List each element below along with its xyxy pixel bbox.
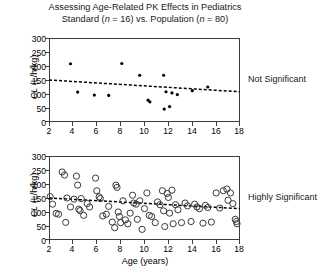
data-point bbox=[224, 186, 230, 192]
data-point bbox=[200, 220, 206, 226]
data-point bbox=[139, 226, 145, 232]
data-point bbox=[227, 190, 233, 196]
data-point bbox=[141, 206, 147, 212]
data-point bbox=[73, 173, 79, 179]
data-point bbox=[49, 201, 55, 207]
data-point bbox=[166, 210, 172, 216]
annotation-highly-significant: Highly Significant bbox=[248, 192, 317, 202]
data-point bbox=[100, 213, 106, 219]
data-point bbox=[161, 208, 167, 214]
data-point bbox=[169, 187, 175, 193]
figure-root: Assessing Age-Related PK Effects in Pedi… bbox=[0, 0, 331, 273]
data-point bbox=[115, 209, 121, 215]
data-point bbox=[94, 188, 100, 194]
data-point bbox=[208, 219, 214, 225]
regression-line-bottom bbox=[49, 198, 240, 209]
data-point bbox=[63, 219, 69, 225]
data-point bbox=[188, 218, 194, 224]
data-point bbox=[178, 220, 184, 226]
data-point bbox=[92, 175, 98, 181]
data-point bbox=[220, 188, 226, 194]
data-point bbox=[152, 220, 158, 226]
data-point bbox=[175, 207, 181, 213]
data-point bbox=[230, 201, 236, 207]
data-point bbox=[81, 212, 87, 218]
data-point bbox=[120, 198, 126, 204]
data-point bbox=[75, 182, 81, 188]
scatter-layer-bottom bbox=[0, 0, 331, 273]
data-point bbox=[67, 204, 73, 210]
data-point bbox=[112, 225, 118, 231]
data-point bbox=[170, 221, 176, 227]
data-point bbox=[134, 216, 140, 222]
data-point bbox=[64, 195, 70, 201]
x-axis-label: Age (years) bbox=[105, 256, 185, 266]
data-point bbox=[106, 203, 112, 209]
data-point bbox=[103, 211, 109, 217]
data-point bbox=[114, 184, 120, 190]
data-point bbox=[129, 192, 135, 198]
data-point bbox=[213, 190, 219, 196]
data-point bbox=[116, 213, 122, 219]
data-point bbox=[165, 194, 171, 200]
data-point bbox=[127, 210, 133, 216]
data-point bbox=[144, 190, 150, 196]
data-point bbox=[162, 223, 168, 229]
data-point bbox=[78, 195, 84, 201]
